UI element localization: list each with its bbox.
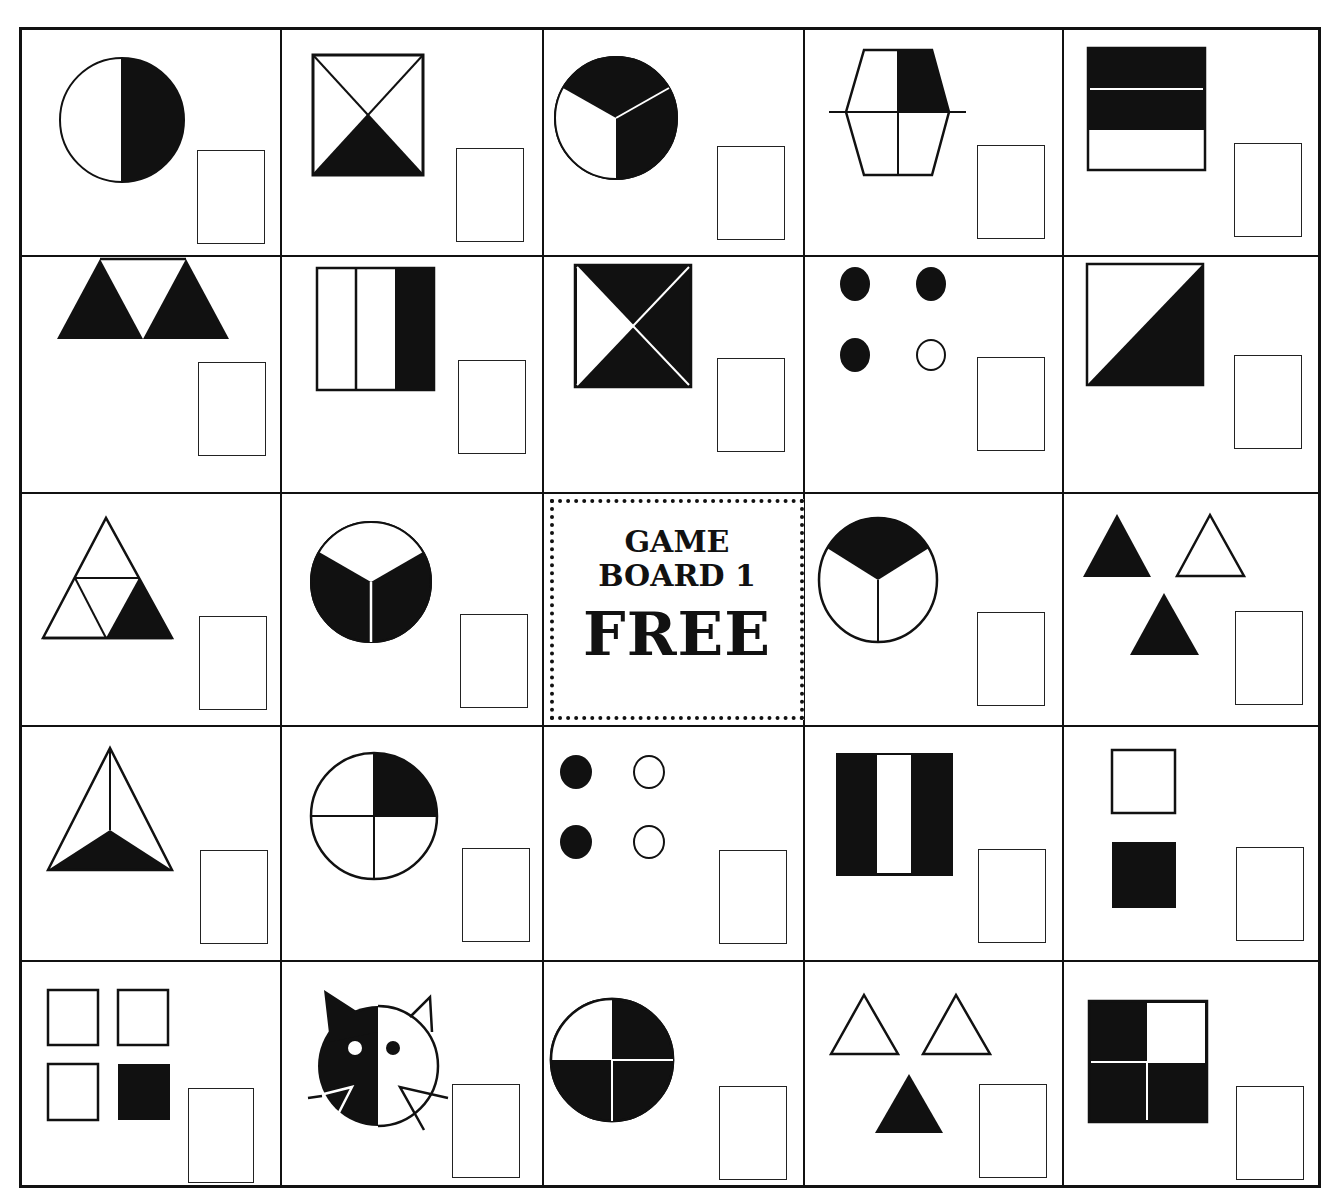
answer-box[interactable]: [978, 849, 1046, 943]
answer-box[interactable]: [462, 848, 530, 942]
cell-r5c4[interactable]: [805, 962, 1062, 1188]
cell-r4c3[interactable]: [544, 727, 803, 960]
cell-r4c4[interactable]: [805, 727, 1062, 960]
cell-r1c3[interactable]: [544, 30, 803, 255]
answer-box[interactable]: [719, 850, 787, 944]
game-board: GAME BOARD 1 FREE: [19, 27, 1321, 1188]
cell-r5c1[interactable]: [22, 962, 280, 1188]
answer-box[interactable]: [198, 362, 266, 456]
answer-box[interactable]: [719, 1086, 787, 1180]
answer-box[interactable]: [1236, 847, 1304, 941]
cell-r1c5[interactable]: [1064, 30, 1321, 255]
answer-box[interactable]: [199, 616, 267, 710]
answer-box[interactable]: [458, 360, 526, 454]
answer-box[interactable]: [1234, 143, 1302, 237]
cell-r1c4[interactable]: [805, 30, 1062, 255]
answer-box[interactable]: [977, 145, 1045, 239]
cell-r5c5[interactable]: [1064, 962, 1321, 1188]
cell-r4c2[interactable]: [282, 727, 542, 960]
answer-box[interactable]: [188, 1088, 254, 1183]
cell-r4c1[interactable]: [22, 727, 280, 960]
cell-r5c2[interactable]: [282, 962, 542, 1188]
answer-box[interactable]: [1234, 355, 1302, 449]
cell-r4c5[interactable]: [1064, 727, 1321, 960]
answer-box[interactable]: [456, 148, 524, 242]
answer-box[interactable]: [1236, 1086, 1304, 1180]
board-title-line1: GAME: [554, 525, 800, 559]
answer-box[interactable]: [717, 146, 785, 240]
answer-box[interactable]: [460, 614, 528, 708]
answer-box[interactable]: [452, 1084, 520, 1178]
answer-box[interactable]: [717, 358, 785, 452]
cell-r1c2[interactable]: [282, 30, 542, 255]
cell-r2c3[interactable]: [544, 257, 803, 492]
cell-r2c5[interactable]: [1064, 257, 1321, 492]
answer-box[interactable]: [1235, 611, 1303, 705]
free-label: FREE: [554, 599, 800, 669]
cell-r3c1[interactable]: [22, 494, 280, 725]
answer-box[interactable]: [979, 1084, 1047, 1178]
cell-r2c2[interactable]: [282, 257, 542, 492]
answer-box[interactable]: [977, 357, 1045, 451]
answer-box[interactable]: [200, 850, 268, 944]
cell-r2c1[interactable]: [22, 257, 280, 492]
cell-r2c4[interactable]: [805, 257, 1062, 492]
board-title-line2: BOARD 1: [554, 559, 800, 593]
cell-r3c4[interactable]: [805, 494, 1062, 725]
free-space: GAME BOARD 1 FREE: [550, 499, 804, 720]
cell-r3c2[interactable]: [282, 494, 542, 725]
answer-box[interactable]: [197, 150, 265, 244]
cell-r1c1[interactable]: [22, 30, 280, 255]
answer-box[interactable]: [977, 612, 1045, 706]
cell-r3c5[interactable]: [1064, 494, 1321, 725]
cell-r5c3[interactable]: [544, 962, 803, 1188]
